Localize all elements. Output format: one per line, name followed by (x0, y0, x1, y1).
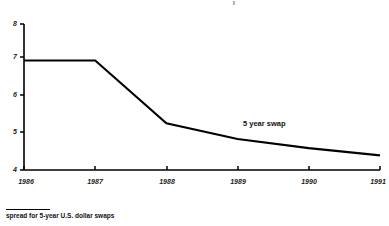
series-line-5-year-swap (24, 61, 380, 156)
plot-area: 8 7 6 5 4 1986 1987 1988 1989 1990 1991 … (0, 0, 389, 226)
x-tick-label-1989: 1989 (218, 178, 258, 186)
x-tick-label-1988: 1988 (147, 178, 187, 186)
x-tick-label-1987: 1987 (75, 178, 115, 186)
y-tick-label-8: 8 (1, 20, 17, 28)
footnote-rule (6, 209, 50, 210)
x-tick-label-1990: 1990 (289, 178, 329, 186)
chart-figure: 8 7 6 5 4 1986 1987 1988 1989 1990 1991 … (0, 0, 389, 226)
y-tick-label-6: 6 (1, 91, 17, 99)
footnote-text: spread for 5-year U.S. dollar swaps (6, 212, 346, 220)
chart-canvas (0, 0, 389, 226)
x-tick-label-1991: 1991 (358, 178, 389, 186)
footnote: spread for 5-year U.S. dollar swaps (6, 209, 346, 220)
y-tick-label-5: 5 (1, 128, 17, 136)
series-annotation-label: 5 year swap (243, 119, 286, 128)
y-tick-label-7: 7 (1, 53, 17, 61)
y-tick-label-4: 4 (1, 166, 17, 174)
x-tick-label-1986: 1986 (6, 178, 46, 186)
